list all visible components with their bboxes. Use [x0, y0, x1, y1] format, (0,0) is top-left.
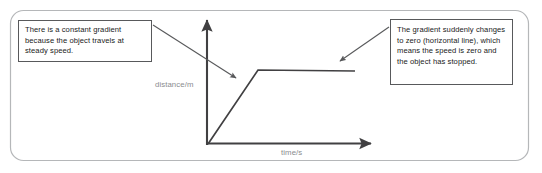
x-axis-label: time/s	[281, 148, 302, 157]
annotation-box-constant-gradient: There is a constant gradient because the…	[18, 20, 152, 62]
annotation-arrow-zero-gradient	[340, 27, 389, 61]
annotation-arrow-constant-gradient	[153, 25, 236, 78]
y-axis-label: distance/m	[155, 80, 193, 89]
distance-time-graph-figure: There is a constant gradient because the…	[0, 0, 542, 173]
distance-time-plot-line	[208, 70, 355, 144]
annotation-box-zero-gradient: The gradient suddenly changes to zero (h…	[390, 19, 513, 85]
